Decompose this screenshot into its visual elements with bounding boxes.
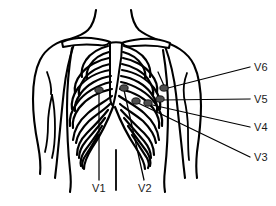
left-clavicle bbox=[62, 38, 110, 47]
rib-cage-left-side bbox=[70, 46, 113, 169]
torso-outline-group bbox=[33, 10, 201, 192]
electrode-marker-v5 bbox=[156, 96, 164, 102]
electrode-marker-v4 bbox=[144, 100, 152, 106]
electrode-marker-v6 bbox=[160, 85, 168, 91]
torso-right-flank bbox=[163, 50, 168, 192]
label-v6: V6 bbox=[254, 61, 268, 73]
label-v5: V5 bbox=[254, 93, 268, 105]
rib-right-1 bbox=[124, 46, 150, 77]
neck-right-outline bbox=[131, 10, 160, 41]
rib-left-1 bbox=[82, 46, 108, 77]
label-v2: V2 bbox=[138, 182, 152, 194]
rib-cage-right-side bbox=[115, 46, 162, 169]
electrode-marker-v1 bbox=[95, 87, 103, 93]
label-v4: V4 bbox=[254, 121, 268, 133]
ecg-electrode-placement-figure: V1 V2 V3 V4 V5 V6 bbox=[0, 0, 276, 206]
label-v1: V1 bbox=[92, 182, 106, 194]
label-v3: V3 bbox=[254, 151, 268, 163]
rib-right-5b bbox=[120, 104, 156, 143]
anatomy-illustration: V1 V2 V3 V4 V5 V6 bbox=[0, 0, 276, 206]
electrode-marker-v2 bbox=[120, 85, 128, 91]
neck-left-outline bbox=[70, 10, 96, 39]
electrode-marker-v3 bbox=[132, 98, 140, 104]
